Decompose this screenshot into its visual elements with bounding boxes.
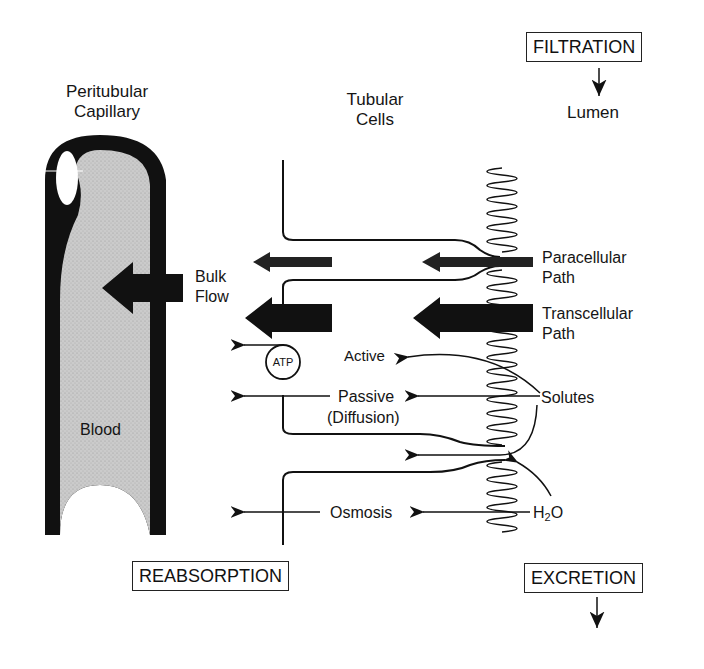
transcellular-arrow-lumen [413, 297, 533, 339]
cell-upper-membrane [283, 160, 500, 257]
solutes-label: Solutes [541, 388, 594, 408]
bulk-flow-label: Bulk Flow [195, 267, 229, 307]
blood-label: Blood [80, 420, 121, 440]
peritubular-capillary [45, 135, 166, 535]
osmosis-label: Osmosis [330, 503, 392, 523]
water-label: H2O [533, 503, 563, 527]
diffusion-label: (Diffusion) [327, 408, 400, 428]
cell-lower-membrane [283, 460, 505, 545]
brush-border-microvilli [487, 168, 517, 532]
tubular-cell-membranes [283, 160, 505, 545]
filtration-box: FILTRATION [526, 32, 642, 62]
passive-label: Passive [338, 387, 394, 407]
tubular-cells-header: Tubular Cells [330, 90, 420, 130]
active-label: Active [344, 346, 385, 366]
paracellular-arrow-interstitium [253, 252, 332, 272]
red-blood-cell [56, 151, 78, 205]
transcellular-path-label: Transcellular Path [542, 304, 633, 344]
capillary-header: Peritubular Capillary [52, 82, 162, 122]
water-curved-arrow [517, 462, 551, 496]
paracellular-path-label: Paracellular Path [542, 248, 626, 288]
excretion-box: EXCRETION [524, 563, 643, 593]
paracellular-arrow-lumen [422, 252, 533, 272]
reabsorption-box: REABSORPTION [132, 561, 289, 591]
solutes-return-curve [418, 405, 537, 455]
lumen-header: Lumen [567, 103, 619, 123]
atp-label: ATP [266, 355, 300, 369]
transcellular-arrow-interstitium [245, 297, 332, 339]
active-transport-arrow [408, 355, 540, 393]
